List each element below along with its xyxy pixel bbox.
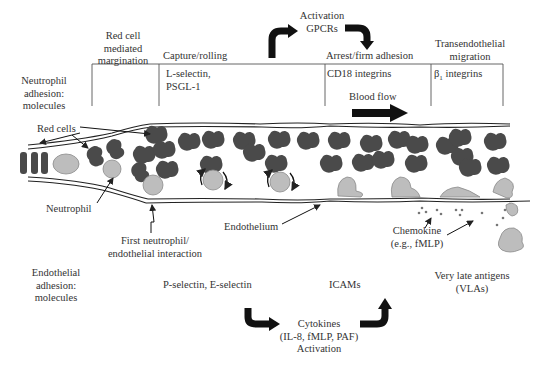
stage-red-cell-margination: Red cell mediated margination <box>88 30 158 68</box>
activation-gpcrs-label: Activation GPCRs <box>292 10 352 35</box>
chemokine-label: Chemokine (e.g., fMLP) <box>382 225 452 250</box>
neutrophil-migration-molecules: β1 integrins <box>434 68 482 85</box>
neutrophil-arrest-molecules: CD18 integrins <box>327 68 391 81</box>
endothelial-arrest-molecules: ICAMs <box>329 279 361 292</box>
chemokine-dots <box>418 207 507 227</box>
endothelium-label: Endothelium <box>224 221 278 234</box>
cytokines-activation-label: Cytokines (IL-8, fMLP, PAF) Activation <box>274 318 364 356</box>
blood-flow-arrow <box>352 104 408 122</box>
endothelial-adhesion-molecules-title: Endothelial adhesion: molecules <box>18 267 94 305</box>
stage-arrest-firm-adhesion: Arrest/firm adhesion <box>326 50 413 63</box>
stage-capture-rolling: Capture/rolling <box>163 50 227 63</box>
endothelial-capture-molecules: P-selectin, E-selectin <box>163 279 252 292</box>
blood-flow-label: Blood flow <box>349 91 397 104</box>
red-cells <box>20 126 510 185</box>
neutrophil-label: Neutrophil <box>46 203 92 216</box>
neutrophil-adhesion-molecules-title: Neutrophil adhesion: molecules <box>6 75 82 113</box>
first-interaction-label: First neutrophil/ endothelial interactio… <box>100 235 210 260</box>
endothelial-migration-molecules: Very late antigens (VLAs) <box>422 270 522 295</box>
stage-transendothelial-migration: Transendothelial migration <box>427 38 513 63</box>
red-cells-label: Red cells <box>37 123 76 136</box>
neutrophil-capture-molecules: L-selectin, PSGL-1 <box>166 68 211 93</box>
